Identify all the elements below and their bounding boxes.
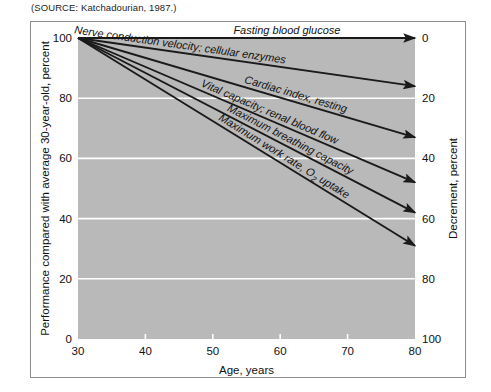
y2-axis-tick-label: 80 [422,273,435,285]
y-axis-tick-label: 0 [66,333,72,345]
y2-axis-tick-label: 100 [422,333,441,345]
y2-axis-title: Decrement, percent [447,137,459,239]
y2-axis-tick-label: 0 [422,32,428,44]
figure-frame: 020406080100020406080100304050607080Age,… [30,21,466,378]
x-axis-tick-label: 80 [409,345,422,357]
x-axis-tick-label: 40 [139,345,152,357]
source-text: (SOURCE: Katchadourian, 1987.) [31,2,177,13]
x-axis-tick-label: 50 [206,345,219,357]
y2-axis-tick-label: 40 [422,152,435,164]
y-axis-tick-label: 60 [59,152,72,164]
aging-performance-line-chart: 020406080100020406080100304050607080Age,… [31,22,465,377]
series-label: Fasting blood glucose [233,24,340,36]
y-axis-tick-label: 20 [59,273,72,285]
x-axis-title: Age, years [219,364,274,376]
y-axis-title: Performance compared with average 30-yea… [39,40,51,335]
x-axis-tick-label: 60 [274,345,287,357]
y2-axis-tick-label: 60 [422,213,435,225]
y-axis-tick-label: 100 [53,32,72,44]
source-citation: (SOURCE: Katchadourian, 1987.) [31,2,177,13]
y-axis-tick-label: 80 [59,92,72,104]
x-axis-tick-label: 70 [341,345,354,357]
y2-axis-tick-label: 20 [422,92,435,104]
x-axis-tick-label: 30 [72,345,85,357]
y-axis-tick-label: 40 [59,213,72,225]
